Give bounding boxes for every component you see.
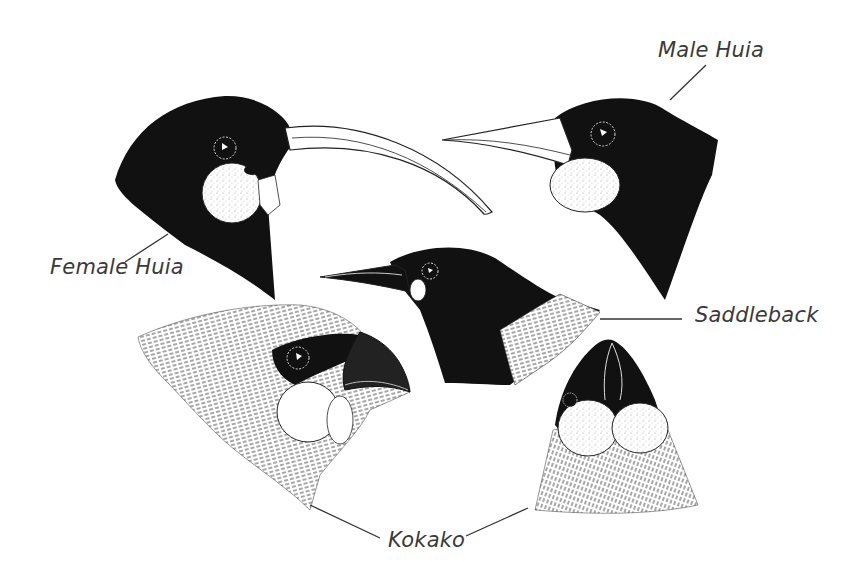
kokako-front-head: [535, 339, 698, 513]
female-huia-label: Female Huia: [50, 255, 184, 279]
kokako-side-head: [138, 305, 410, 510]
bird-illustration: Female Huia Male Huia Saddleback Kokako: [0, 0, 860, 584]
male-huia-label: Male Huia: [658, 38, 764, 62]
kokako-leader-line-left: [310, 505, 380, 538]
kokako-leader-line-right: [466, 508, 528, 536]
kokako-label: Kokako: [388, 528, 465, 552]
male-huia-leader-line: [670, 65, 706, 100]
saddleback-label: Saddleback: [695, 303, 819, 327]
